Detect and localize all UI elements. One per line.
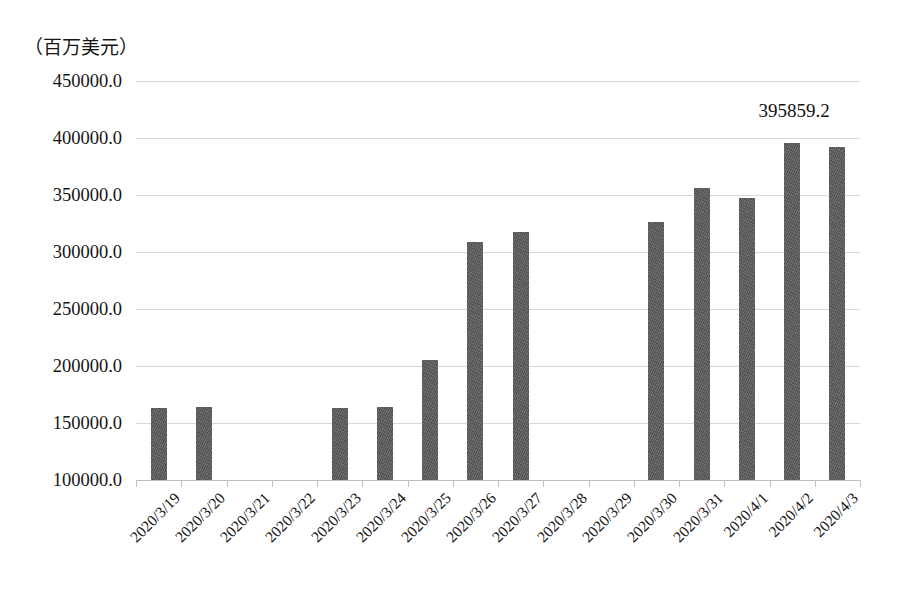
bar [422, 360, 438, 480]
x-axis-tick-mark [589, 480, 590, 487]
y-axis-tick-label: 250000.0 [0, 299, 122, 320]
x-axis-tick-mark [815, 480, 816, 487]
x-axis-tick-mark [634, 480, 635, 487]
gridline [136, 81, 860, 82]
x-axis-tick-mark [543, 480, 544, 487]
x-axis-tick-mark [227, 480, 228, 487]
bar-chart: （百万美元） 450000.0400000.0350000.0300000.02… [0, 0, 903, 607]
plot-area: 395859.2 [136, 81, 860, 480]
y-axis-tick-label: 100000.0 [0, 470, 122, 491]
x-axis-tick-mark [679, 480, 680, 487]
bar [648, 222, 664, 480]
x-axis-tick-mark [317, 480, 318, 487]
bar [377, 407, 393, 480]
x-axis-tick-mark [136, 480, 137, 487]
x-axis-tick-mark [770, 480, 771, 487]
x-axis-tick-mark [498, 480, 499, 487]
y-axis-tick-label: 350000.0 [0, 185, 122, 206]
data-label: 395859.2 [759, 100, 830, 122]
y-axis-tick-label: 300000.0 [0, 242, 122, 263]
bar [196, 407, 212, 480]
x-axis-tick-mark [453, 480, 454, 487]
y-axis-tick-labels: 450000.0400000.0350000.0300000.0250000.0… [0, 81, 128, 480]
bar [739, 198, 755, 480]
x-axis-tick-label: 2020/4/1 [720, 489, 772, 541]
y-axis-tick-label: 450000.0 [0, 71, 122, 92]
y-axis-tick-label: 150000.0 [0, 413, 122, 434]
bar [829, 147, 845, 480]
bar [513, 232, 529, 480]
x-axis-tick-label: 2020/4/3 [810, 489, 862, 541]
bar [467, 242, 483, 480]
gridline [136, 138, 860, 139]
bar [784, 143, 800, 480]
bar [151, 408, 167, 480]
x-axis-tick-mark [860, 480, 861, 487]
x-axis-tick-mark [362, 480, 363, 487]
gridline [136, 195, 860, 196]
bar [694, 188, 710, 480]
x-axis-tick-mark [724, 480, 725, 487]
x-axis-tick-mark [181, 480, 182, 487]
x-axis-tick-mark [272, 480, 273, 487]
x-axis-tick-mark [408, 480, 409, 487]
y-axis-tick-label: 200000.0 [0, 356, 122, 377]
axis-unit-title: （百万美元） [24, 32, 138, 59]
x-axis-tick-label: 2020/4/2 [765, 489, 817, 541]
bar [332, 408, 348, 480]
y-axis-tick-label: 400000.0 [0, 128, 122, 149]
